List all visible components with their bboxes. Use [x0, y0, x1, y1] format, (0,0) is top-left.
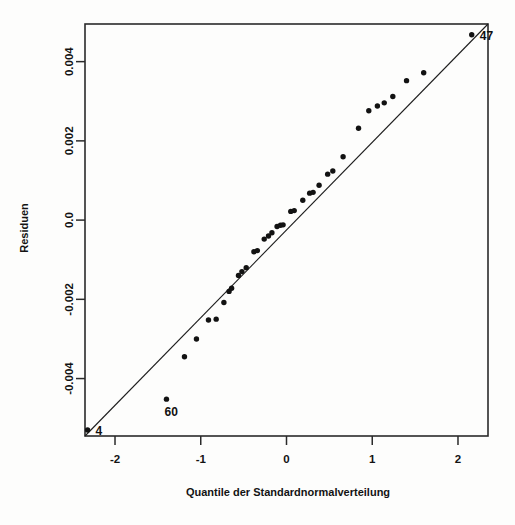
x-tick-label: 1: [369, 453, 376, 465]
y-tick-label: 0.002: [63, 126, 75, 155]
qq-reference-line: [85, 24, 488, 436]
data-point-marker: [280, 222, 285, 227]
x-axis-ticks: [115, 436, 458, 445]
point-annotation-label: 60: [164, 405, 178, 419]
y-tick-label: 0.004: [63, 47, 75, 76]
x-axis-title: Quantile der Standardnormalverteilung: [186, 486, 390, 498]
y-tick-label: -0.004: [63, 362, 75, 395]
y-axis-title: Residuen: [18, 203, 30, 253]
y-tick-label: 0.0: [63, 212, 75, 228]
reference-line-segment: [85, 24, 488, 436]
y-axis-tick-labels: 0.0040.0020.0-0.002-0.004: [63, 47, 75, 395]
y-axis-ticks: [76, 62, 85, 379]
point-annotations: 47604: [96, 29, 494, 438]
data-point-marker: [182, 354, 187, 359]
data-point-marker: [310, 190, 315, 195]
data-point-marker: [340, 154, 345, 159]
data-point-marker: [382, 100, 387, 105]
data-point-marker: [292, 208, 297, 213]
data-point-marker: [239, 269, 244, 274]
data-point-marker: [229, 286, 234, 291]
data-point-marker: [366, 108, 371, 113]
data-point-marker: [404, 78, 409, 83]
plot-canvas: -2-1012 0.0040.0020.0-0.002-0.004 47604 …: [0, 0, 515, 525]
y-tick-label: -0.002: [63, 283, 75, 316]
x-tick-label: 2: [455, 453, 461, 465]
x-tick-label: -2: [110, 453, 120, 465]
data-point-marker: [330, 168, 335, 173]
point-annotation-label: 47: [480, 29, 494, 43]
data-point-marker: [85, 427, 90, 432]
data-point-marker: [206, 317, 211, 322]
data-point-marker: [269, 230, 274, 235]
data-point-marker: [244, 265, 249, 270]
data-point-marker: [375, 103, 380, 108]
data-point-marker: [164, 396, 169, 401]
data-point-marker: [325, 171, 330, 176]
qq-plot-figure: -2-1012 0.0040.0020.0-0.002-0.004 47604 …: [0, 0, 515, 525]
data-points: [85, 32, 475, 433]
data-point-marker: [316, 183, 321, 188]
data-point-marker: [213, 316, 218, 321]
data-point-marker: [469, 32, 474, 37]
data-point-marker: [390, 94, 395, 99]
point-annotation-label: 4: [96, 424, 103, 438]
x-tick-label: -1: [196, 453, 207, 465]
data-point-marker: [300, 198, 305, 203]
x-tick-label: 0: [283, 453, 289, 465]
data-point-marker: [356, 125, 361, 130]
data-point-marker: [255, 248, 260, 253]
data-point-marker: [221, 300, 226, 305]
x-axis-tick-labels: -2-1012: [110, 453, 461, 465]
data-point-marker: [262, 236, 267, 241]
data-point-marker: [421, 70, 426, 75]
data-point-marker: [194, 336, 199, 341]
